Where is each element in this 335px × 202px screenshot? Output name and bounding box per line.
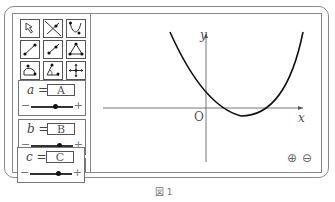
y-axis-label: y	[200, 28, 207, 42]
line-through-points-icon	[44, 20, 62, 37]
slider-track[interactable]	[31, 106, 73, 108]
x-axis-arrow-icon	[298, 106, 303, 110]
x-axis-label: x	[298, 111, 305, 125]
arc-icon	[21, 62, 39, 79]
parameter-c-label: c =	[26, 150, 47, 164]
origin-label: O	[194, 110, 204, 124]
tool-move-view[interactable]	[66, 61, 86, 80]
graph-view[interactable]: y x O ⊕ ⊖	[91, 14, 321, 172]
increase-a-button[interactable]: +	[74, 99, 83, 112]
tool-palette	[20, 19, 86, 81]
tool-polygon[interactable]	[66, 40, 86, 59]
parameter-a-slider[interactable]: − +	[21, 101, 83, 113]
ray-icon	[44, 41, 62, 58]
parabola-curve	[170, 32, 303, 116]
segment-icon	[21, 41, 39, 58]
zoom-in-button[interactable]: ⊕	[287, 151, 297, 165]
move-view-icon	[67, 62, 85, 79]
function-curve-icon	[67, 20, 85, 37]
slider-thumb[interactable]	[53, 104, 58, 109]
tool-arc[interactable]	[20, 61, 40, 80]
angle-icon	[44, 62, 62, 79]
parameter-b-label: b =	[27, 122, 49, 136]
tool-function[interactable]	[66, 19, 86, 38]
parameter-a: a = A − +	[18, 80, 86, 116]
parameter-c-input[interactable]: C	[46, 151, 74, 163]
tool-move[interactable]	[20, 19, 40, 38]
parameter-a-input[interactable]: A	[47, 84, 75, 96]
graph-canvas	[91, 14, 323, 172]
parameter-b-input[interactable]: B	[47, 123, 75, 135]
move-arrow-icon	[21, 20, 39, 37]
tool-segment[interactable]	[20, 40, 40, 59]
slider-track[interactable]	[30, 173, 72, 175]
decrease-a-button[interactable]: −	[21, 99, 30, 112]
decrease-c-button[interactable]: −	[20, 166, 29, 179]
parameter-a-label: a =	[27, 83, 48, 97]
parameter-c-box: c = C − +	[17, 147, 85, 183]
tool-ray[interactable]	[43, 40, 63, 59]
triangle-polygon-icon	[67, 41, 85, 58]
slider-thumb[interactable]	[56, 171, 61, 176]
tool-line[interactable]	[43, 19, 63, 38]
increase-c-button[interactable]: +	[73, 166, 82, 179]
figure-caption: 図 1	[155, 185, 173, 198]
tool-angle[interactable]	[43, 61, 63, 80]
parameter-c-slider[interactable]: − +	[20, 168, 82, 180]
zoom-out-button[interactable]: ⊖	[302, 151, 312, 165]
